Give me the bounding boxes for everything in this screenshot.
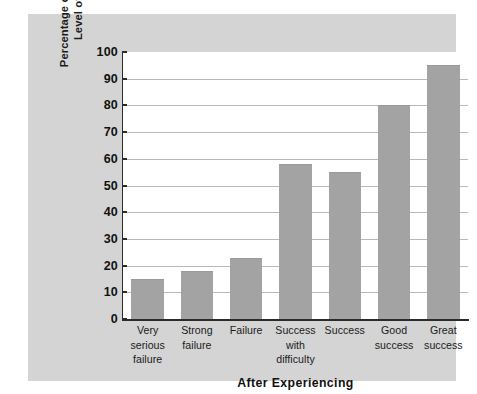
bar[interactable] [378,105,411,319]
figure-panel: Percentage of Cases Raising Level of Asp… [28,14,456,381]
y-tick-mark-30 [122,238,127,240]
y-tick-label-80: 80 [78,98,118,112]
y-axis-tick-labels: 0102030405060708090100 [72,52,118,319]
category-label-line: with [265,338,326,353]
y-tick-label-100: 100 [78,45,118,59]
category-label-line: difficulty [265,352,326,367]
bar-slot [419,52,468,319]
category-label-line: failure [166,338,227,353]
y-tick-mark-60 [122,158,127,160]
bar[interactable] [329,172,362,319]
bar-slot [222,52,271,319]
y-tick-mark-70 [122,131,127,133]
x-axis-category-labels: VeryseriousfailureStrongfailureFailureSu… [123,323,468,371]
y-tick-mark-80 [122,104,127,106]
bar-slot [172,52,221,319]
x-axis-line [122,319,469,321]
bar-slot [369,52,418,319]
bar-slot [320,52,369,319]
plot-area [123,52,468,319]
y-tick-label-30: 30 [78,232,118,246]
bar-slot [271,52,320,319]
category-label: Greatsuccess [413,323,474,352]
bar[interactable] [279,164,312,319]
y-tick-mark-0 [122,318,127,320]
bar[interactable] [427,65,460,319]
x-axis-title: After Experiencing [123,376,468,390]
category-label-line: Great [413,323,474,338]
y-tick-label-0: 0 [78,312,118,326]
y-tick-label-50: 50 [78,179,118,193]
plot-region [123,52,468,319]
bar[interactable] [131,279,164,319]
y-tick-mark-20 [122,265,127,267]
bar[interactable] [181,271,214,319]
y-tick-label-60: 60 [78,152,118,166]
y-tick-label-70: 70 [78,125,118,139]
y-axis-title-line-2: Level of Aspiration [71,0,85,40]
y-tick-mark-10 [122,291,127,293]
bar-slot [123,52,172,319]
y-tick-mark-90 [122,78,127,80]
y-axis-title-line-1: Percentage of Cases Raising [57,0,71,67]
y-tick-mark-50 [122,185,127,187]
y-tick-mark-40 [122,211,127,213]
y-tick-mark-100 [122,51,127,53]
bar[interactable] [230,258,263,319]
category-label-line: failure [117,352,178,367]
y-tick-label-10: 10 [78,285,118,299]
category-label-line: success [413,338,474,353]
y-tick-label-40: 40 [78,205,118,219]
y-tick-label-90: 90 [78,72,118,86]
y-tick-label-20: 20 [78,259,118,273]
